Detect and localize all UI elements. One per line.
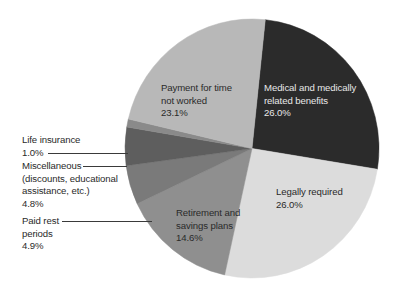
- leader-line-miscellaneous: [83, 166, 127, 167]
- label-life-insurance: Life insurance 1.0%: [22, 134, 80, 159]
- label-miscellaneous: Miscellaneous (discounts, educational as…: [22, 160, 118, 210]
- pie-slices: [125, 19, 379, 278]
- label-medical: Medical and medically related benefits 2…: [264, 82, 356, 120]
- leader-line-life-insurance: [48, 153, 128, 154]
- label-legally-required: Legally required 26.0%: [276, 186, 343, 211]
- label-paid-rest-periods: Paid rest periods 4.9%: [22, 215, 59, 253]
- label-retirement: Retirement and savings plans 14.6%: [176, 207, 240, 245]
- leader-line-paid-rest-periods: [62, 221, 152, 222]
- label-payment: Payment for time not worked 23.1%: [161, 82, 232, 120]
